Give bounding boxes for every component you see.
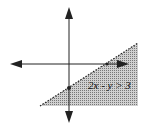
- y-axis-up-arrow-icon: [65, 7, 73, 19]
- y-intercept-point: [67, 86, 71, 90]
- graph-canvas: [0, 0, 144, 129]
- inequality-label: 2x - y > 3: [88, 79, 131, 91]
- y-axis-down-arrow-icon: [65, 111, 73, 123]
- x-axis-left-arrow-icon: [10, 60, 22, 68]
- x-intercept-point: [106, 63, 109, 66]
- inequality-graph: 2x - y > 3: [0, 0, 144, 129]
